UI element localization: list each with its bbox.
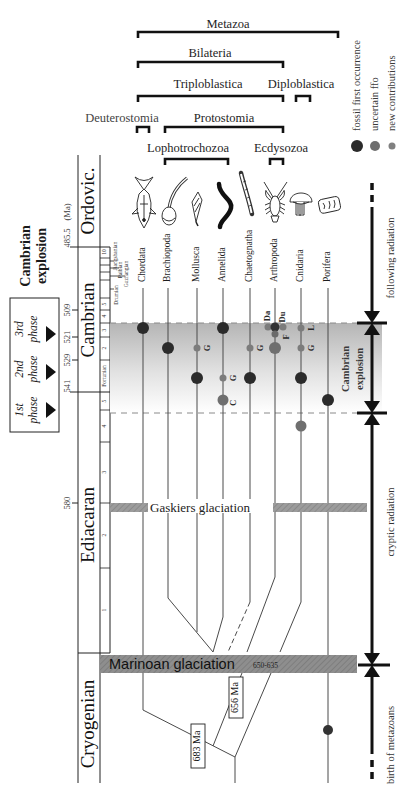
taxon-label-porifera: Porifera <box>322 251 332 282</box>
stage-cambrian-2: 2 <box>101 346 107 349</box>
heading-line-1: Cambrian <box>18 225 33 287</box>
new-contribution-dot-icon <box>298 345 305 352</box>
time-axis-unit: (Ma) <box>62 203 72 220</box>
clade-label-triploblastica: Triploblastica <box>174 77 243 91</box>
period-cryogenian: Cryogenian <box>77 679 98 768</box>
occurrence-label: C <box>228 400 238 406</box>
heading-line-2: explosion <box>34 228 49 284</box>
tick-485-5: 485.5 <box>62 228 72 247</box>
new-contribution-dot-icon <box>247 345 254 352</box>
new-contribution-dot-icon <box>272 331 279 338</box>
ffo-dot-icon <box>244 372 256 384</box>
legend-label-new: new contributions <box>386 55 397 131</box>
ffo-dot-icon <box>162 342 174 354</box>
taxon-label-cnidaria: Cnidaria <box>295 249 305 282</box>
period-cambrian: Cambrian <box>77 282 98 357</box>
occurrence-label: G <box>228 374 238 381</box>
ffo-dot-icon <box>137 322 149 334</box>
label-following-radiation: following radiation <box>385 217 396 299</box>
clade-label-ecdysozoa: Ecdysozoa <box>254 141 309 155</box>
stage-cambrian-4: 4 <box>101 314 107 317</box>
period-ediacaran: Ediacaran <box>77 487 98 563</box>
label-birth-of-metazoans: birth of metazoans <box>385 706 396 784</box>
stage-drumian: Drumian <box>113 285 119 305</box>
stage-guzhangian: Guzhangian <box>123 260 129 287</box>
taxon-label-chordata: Chordata <box>137 246 147 282</box>
ffo-dot-icon <box>271 323 280 332</box>
label-explosion-line-1: Cambrian <box>340 346 351 392</box>
taxon-label-chaetognatha: Chaetognatha <box>244 229 254 282</box>
gaskiers-label: Gaskiers glaciation <box>150 500 250 515</box>
tick-529: 529 <box>62 354 72 367</box>
phase-1-ordinal: 1st <box>13 402 25 416</box>
occurrence-label: G <box>202 344 212 351</box>
clade-label-diploblastica: Diploblastica <box>268 77 335 91</box>
phase-3-word: phase <box>27 316 40 344</box>
date-683-ma: 683 Ma <box>191 730 202 761</box>
legend-label-ffo: fossil first occurrence <box>351 40 362 131</box>
ffo-dot-icon <box>295 372 307 384</box>
stage-ediacaran-1: 1 <box>101 608 107 611</box>
ffo-dot-icon <box>322 394 334 406</box>
date-656-ma: 656 Ma <box>229 682 240 713</box>
stage-ediacaran-2: 2 <box>101 533 107 536</box>
tick-580: 580 <box>62 497 72 510</box>
occurrence-label: Du <box>277 311 287 322</box>
occurrence-label: F <box>281 334 291 339</box>
new-contribution-dot-icon <box>298 325 305 332</box>
tick-521: 521 <box>62 331 72 344</box>
stage-cambrian-5: 5 <box>101 302 107 305</box>
phase-2-ordinal: 2nd <box>13 360 25 378</box>
uncertain-ffo-dot-icon <box>296 421 307 432</box>
phase-3-ordinal: 3rd <box>13 321 25 338</box>
occurrence-label: G <box>306 344 316 351</box>
uncertain-ffo-dot-icon <box>218 395 229 406</box>
cambrian-explosion-figure: Metazoa Bilateria Triploblastica Diplobl… <box>0 0 404 806</box>
taxon-label-brachiopoda: Brachiopoda <box>162 233 172 282</box>
occurrence-label: Da <box>262 310 272 321</box>
new-contribution-dot-icon <box>280 324 287 331</box>
marinoan-range: 650-635 <box>253 661 278 670</box>
marinoan-label: Marinoan glaciation <box>109 656 235 672</box>
clade-label-lophotrochozoa: Lophotrochozoa <box>147 141 229 155</box>
label-cryptic-radiation: cryptic radiation <box>385 487 396 557</box>
clade-label-deuterostomia: Deuterostomia <box>85 111 159 125</box>
taxon-label-annelida: Annelida <box>217 246 227 282</box>
marinoan-glaciation: Marinoan glaciation 650-635 <box>100 655 357 673</box>
label-explosion-line-2: explosion <box>354 348 365 390</box>
legend-uncertain-dot-icon <box>370 141 380 151</box>
stage-cambrian-3: 3 <box>101 328 107 331</box>
new-contribution-dot-icon <box>265 324 272 331</box>
ffo-dot-icon <box>191 372 203 384</box>
stage-ediacaran-3: 3 <box>101 470 107 473</box>
new-contribution-dot-icon <box>220 375 227 382</box>
clade-label-protostomia: Protostomia <box>194 111 255 125</box>
new-contribution-dot-icon <box>194 345 201 352</box>
ffo-dot-icon <box>323 725 333 735</box>
stage-fortunian: Fortunian <box>101 365 107 387</box>
stage-cambrian-10: 10 <box>101 249 107 255</box>
legend-ffo-dot-icon <box>351 140 363 152</box>
occurrence-label: G <box>255 344 265 351</box>
legend-label-uncertain: uncertain ffo <box>369 77 380 131</box>
ffo-dot-icon <box>217 322 229 334</box>
stage-ediacaran-5: 5 <box>101 399 107 402</box>
phase-1-word: phase <box>27 397 40 425</box>
tick-509: 509 <box>62 304 72 317</box>
cambrian-explosion-heading: Cambrian explosion <box>18 225 49 287</box>
phase-box: 1st phase 2nd phase 3rd phase <box>10 298 59 432</box>
taxon-label-arthropoda: Arthropoda <box>269 237 279 282</box>
clade-label-bilateria: Bilateria <box>188 46 231 60</box>
occurrence-label: L <box>306 325 316 331</box>
taxon-label-mollusca: Mollusca <box>191 246 201 282</box>
period-ordovician: Ordovic. <box>77 167 98 234</box>
phase-2-word: phase <box>27 356 40 384</box>
legend-new-dot-icon <box>389 143 396 150</box>
tick-541: 541 <box>62 380 72 393</box>
uncertain-ffo-dot-icon <box>269 342 281 354</box>
stage-ediacaran-4: 4 <box>101 424 107 427</box>
clade-label-metazoa: Metazoa <box>206 17 249 31</box>
